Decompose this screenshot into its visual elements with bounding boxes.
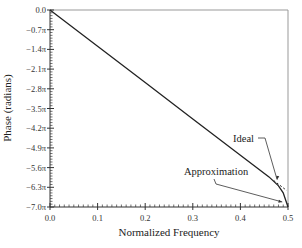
approximation-arrow — [214, 179, 282, 202]
annotation-approximation: Approximation — [184, 166, 249, 177]
annotations: IdealApproximation — [184, 133, 282, 203]
y-tick-label: −7.0π — [26, 202, 46, 212]
y-axis-title: Phase (radians) — [1, 74, 14, 142]
y-tick-label: −4.2π — [26, 123, 46, 133]
phase-response-chart: 0.0−0.7π−1.4π−2.1π−2.8π−3.5π−4.2π−4.9π−5… — [0, 0, 302, 248]
y-tick-label: −4.9π — [26, 143, 46, 153]
x-tick-label: 0.2 — [140, 213, 151, 223]
y-tick-label: −3.5π — [26, 104, 46, 114]
annotation-ideal: Ideal — [233, 133, 254, 144]
x-axis: 0.00.10.20.30.40.5 — [45, 203, 294, 223]
arrowhead-icon — [278, 200, 282, 203]
plot-frame — [50, 10, 288, 207]
x-tick-label: 0.0 — [45, 213, 56, 223]
x-tick-label: 0.3 — [187, 213, 198, 223]
x-tick-label: 0.1 — [92, 213, 103, 223]
data-series — [50, 10, 288, 207]
approximation-line — [50, 10, 288, 207]
x-tick-label: 0.5 — [283, 213, 294, 223]
ideal-arrow — [258, 138, 277, 180]
x-axis-title: Normalized Frequency — [118, 226, 220, 238]
x-tick-label: 0.4 — [235, 213, 246, 223]
y-tick-label: −5.6π — [26, 163, 46, 173]
y-tick-label: 0.0 — [35, 5, 46, 15]
y-tick-label: −2.1π — [26, 64, 46, 74]
y-tick-label: −6.3π — [26, 182, 46, 192]
y-tick-label: −0.7π — [26, 25, 46, 35]
y-tick-label: −2.8π — [26, 84, 46, 94]
y-tick-label: −1.4π — [26, 44, 46, 54]
